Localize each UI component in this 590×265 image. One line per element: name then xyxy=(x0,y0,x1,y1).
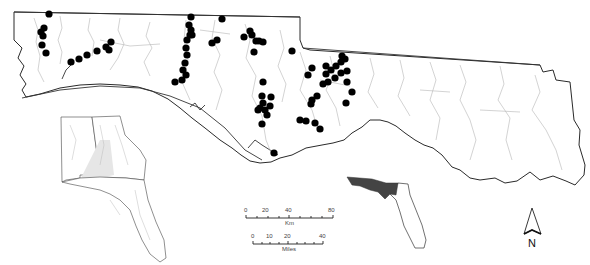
site-marker xyxy=(67,58,74,65)
site-marker xyxy=(296,116,303,123)
site-marker xyxy=(342,99,349,106)
site-marker xyxy=(263,111,270,118)
site-marker xyxy=(258,92,265,99)
svg-text:0: 0 xyxy=(244,207,248,213)
site-marker xyxy=(188,31,195,38)
site-marker xyxy=(343,78,350,85)
svg-text:20: 20 xyxy=(262,207,269,213)
site-marker xyxy=(183,51,190,58)
site-marker xyxy=(343,67,350,74)
site-marker xyxy=(75,55,82,62)
svg-text:N: N xyxy=(528,237,536,249)
florida-locator-inset xyxy=(347,177,426,248)
site-marker xyxy=(39,32,46,39)
site-marker xyxy=(270,149,277,156)
site-marker xyxy=(259,78,266,85)
svg-text:Miles: Miles xyxy=(282,246,296,252)
site-marker xyxy=(250,48,257,55)
site-marker xyxy=(42,49,49,56)
site-marker xyxy=(348,88,355,95)
scale-bar-km: 0 20 40 80 Km xyxy=(244,207,335,226)
scale-bar-miles: 0 10 20 40 Miles xyxy=(251,233,326,252)
site-marker xyxy=(105,46,112,53)
site-marker xyxy=(267,93,274,100)
site-marker xyxy=(213,36,220,43)
site-marker xyxy=(316,125,323,132)
site-marker xyxy=(311,119,318,126)
southeast-us-inset xyxy=(61,116,166,262)
north-arrow: N xyxy=(524,208,541,249)
site-marker xyxy=(187,13,194,20)
site-marker xyxy=(308,64,315,71)
svg-text:80: 80 xyxy=(328,207,335,213)
svg-text:40: 40 xyxy=(285,207,292,213)
site-marker xyxy=(248,31,255,38)
svg-text:40: 40 xyxy=(319,233,326,239)
site-marker xyxy=(254,106,261,113)
svg-text:20: 20 xyxy=(284,233,291,239)
site-marker xyxy=(302,117,309,124)
svg-text:10: 10 xyxy=(266,233,273,239)
site-marker xyxy=(182,44,189,51)
study-area-map: 0 20 40 80 Km 0 10 20 40 Miles N xyxy=(0,0,590,265)
site-marker xyxy=(107,38,114,45)
site-marker xyxy=(185,21,192,28)
svg-text:0: 0 xyxy=(251,233,255,239)
site-marker xyxy=(322,62,329,69)
site-marker xyxy=(258,120,265,127)
site-marker xyxy=(93,47,100,54)
florida-outline xyxy=(62,177,166,262)
site-marker xyxy=(179,66,186,73)
site-marker xyxy=(266,102,273,109)
site-marker xyxy=(255,37,262,44)
site-marker xyxy=(218,15,225,22)
svg-text:Km: Km xyxy=(285,220,294,226)
site-marker xyxy=(304,71,311,78)
site-marker xyxy=(308,96,315,103)
site-marker xyxy=(324,78,331,85)
site-marker xyxy=(240,33,247,40)
study-area-highlight xyxy=(347,177,398,199)
site-marker xyxy=(38,41,45,48)
site-marker xyxy=(338,52,345,59)
site-marker xyxy=(331,74,338,81)
site-marker xyxy=(181,59,188,66)
site-marker xyxy=(83,51,90,58)
site-marker xyxy=(171,78,178,85)
site-marker xyxy=(45,10,52,17)
site-marker xyxy=(288,47,295,54)
